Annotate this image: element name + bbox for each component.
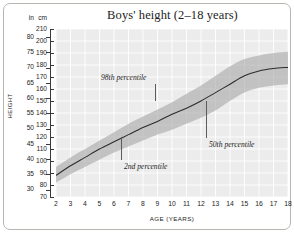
y-tick-in xyxy=(46,113,50,114)
y-tick-in xyxy=(46,129,50,130)
annotation-label: 50th percentile xyxy=(209,140,254,149)
x-tick-label: 12 xyxy=(194,200,208,207)
y-tick-label-in: 45 xyxy=(20,141,34,148)
x-tick-label: 10 xyxy=(165,200,179,207)
y-axis-title: HEIGHT xyxy=(7,84,13,128)
x-tick-label: 13 xyxy=(209,200,223,207)
x-tick-label: 17 xyxy=(267,200,281,207)
y-tick-cm xyxy=(50,197,54,198)
y-tick-label-in: 60 xyxy=(20,95,34,102)
y-tick-cm xyxy=(50,173,54,174)
annotation-leader-line xyxy=(121,137,122,160)
y-tick-cm xyxy=(50,149,54,150)
annotation-label: 98th percentile xyxy=(101,73,146,82)
x-tick-label: 5 xyxy=(93,200,107,207)
y-tick-label-in: 35 xyxy=(20,171,34,178)
x-tick-label: 4 xyxy=(78,200,92,207)
y-tick-label-cm: 210 xyxy=(30,26,47,33)
x-tick-label: 9 xyxy=(151,200,165,207)
y-tick-cm xyxy=(50,101,54,102)
y-tick-cm xyxy=(50,125,54,126)
y-tick-cm xyxy=(50,89,54,90)
y-tick-in xyxy=(46,144,50,145)
x-tick-label: 3 xyxy=(64,200,78,207)
y-tick-in xyxy=(46,52,50,53)
x-tick-label: 7 xyxy=(122,200,136,207)
y-tick-in xyxy=(46,37,50,38)
y-tick-cm xyxy=(50,185,54,186)
y-tick-label-in: 75 xyxy=(20,49,34,56)
y-tick-cm xyxy=(50,137,54,138)
annotation-label: 2nd percentile xyxy=(124,162,167,171)
x-tick-label: 18 xyxy=(281,200,294,207)
x-tick-label: 2 xyxy=(49,200,63,207)
y-tick-cm xyxy=(50,77,54,78)
x-tick-label: 16 xyxy=(252,200,266,207)
y-tick-label-cm: 160 xyxy=(30,86,47,93)
y-tick-cm xyxy=(50,65,54,66)
y-tick-label-in: 80 xyxy=(20,34,34,41)
growth-chart-figure: Boys' height (2–18 years) in cm HEIGHT 7… xyxy=(0,0,294,233)
x-tick-label: 6 xyxy=(107,200,121,207)
y-tick-cm xyxy=(50,41,54,42)
y-tick-in xyxy=(46,68,50,69)
y-tick-in xyxy=(46,83,50,84)
y-tick-label-in: 70 xyxy=(20,64,34,71)
y-tick-label-cm: 70 xyxy=(30,194,47,201)
y-tick-label-in: 55 xyxy=(20,110,34,117)
annotation-leader-line xyxy=(155,84,156,101)
y-tick-cm xyxy=(50,29,54,30)
y-tick-label-in: 30 xyxy=(20,186,34,193)
x-tick-label: 11 xyxy=(180,200,194,207)
y-tick-label-in: 65 xyxy=(20,80,34,87)
y-tick-label-in: 50 xyxy=(20,125,34,132)
plot-svg xyxy=(56,29,288,197)
x-tick-label: 8 xyxy=(136,200,150,207)
y-tick-label-in: 40 xyxy=(20,156,34,163)
y-tick-in xyxy=(46,190,50,191)
chart-title: Boys' height (2–18 years) xyxy=(55,8,290,23)
y-tick-in xyxy=(46,159,50,160)
x-tick-label: 14 xyxy=(223,200,237,207)
y-tick-in xyxy=(46,174,50,175)
y-tick-cm xyxy=(50,53,54,54)
plot-area xyxy=(56,29,288,197)
x-axis-title: AGE (YEARS) xyxy=(56,215,288,222)
y-tick-in xyxy=(46,98,50,99)
y-tick-cm xyxy=(50,161,54,162)
right-axis-unit-label: cm xyxy=(30,14,47,21)
x-tick-label: 15 xyxy=(238,200,252,207)
y-tick-cm xyxy=(50,113,54,114)
annotation-leader-line xyxy=(206,101,207,138)
